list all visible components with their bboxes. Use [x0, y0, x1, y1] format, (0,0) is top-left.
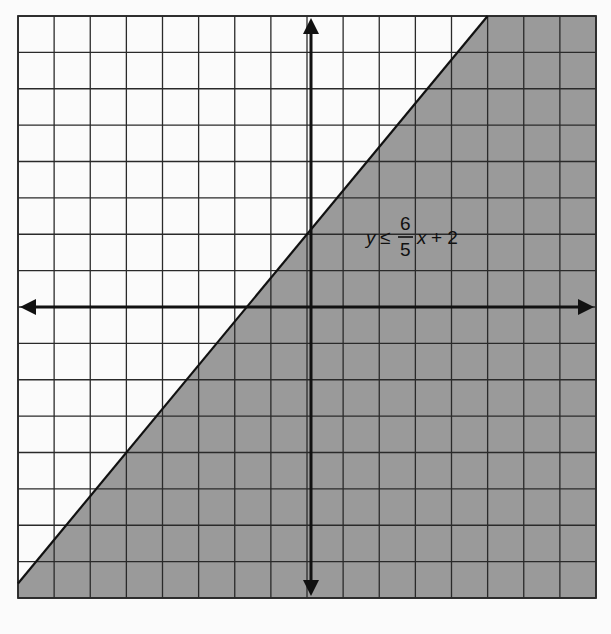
x-axis-left-arrow-icon — [20, 299, 36, 315]
label-tail: + 2 — [431, 227, 458, 248]
label-y: y — [364, 227, 377, 248]
y-axis-up-arrow-icon — [303, 18, 319, 34]
label-denominator: 5 — [400, 239, 411, 260]
inequality-graph: y ≤ 6 5 x + 2 — [0, 0, 611, 634]
label-numerator: 6 — [400, 213, 411, 234]
label-x: x — [416, 227, 428, 248]
label-operator: ≤ — [380, 227, 390, 248]
